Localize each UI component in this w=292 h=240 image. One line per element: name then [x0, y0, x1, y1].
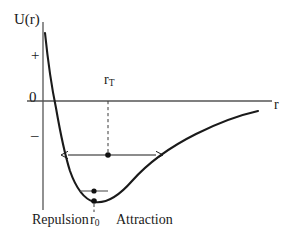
y-tick-minus: –: [31, 128, 39, 143]
y-tick-zero: 0: [29, 90, 37, 105]
repulsion-region-label: Repulsion: [32, 213, 89, 227]
x-axis-label: r: [274, 98, 279, 112]
r0-minimum-marker-dot: [91, 198, 97, 204]
r0-label-subscript: 0: [95, 218, 100, 228]
r0-upper-marker-dot: [91, 188, 96, 193]
potential-energy-curve: [45, 33, 258, 202]
r0-label: r0: [90, 213, 99, 229]
y-tick-plus: +: [31, 48, 39, 63]
potential-energy-diagram: U(r) + 0 – rT r Repulsion r0 Attraction: [0, 0, 292, 240]
attraction-region-label: Attraction: [116, 213, 173, 227]
rt-label: rT: [104, 73, 115, 89]
rt-label-subscript: T: [109, 78, 115, 88]
plot-canvas: [0, 0, 292, 240]
rt-marker-dot: [105, 152, 111, 158]
y-axis-label: U(r): [14, 12, 40, 27]
